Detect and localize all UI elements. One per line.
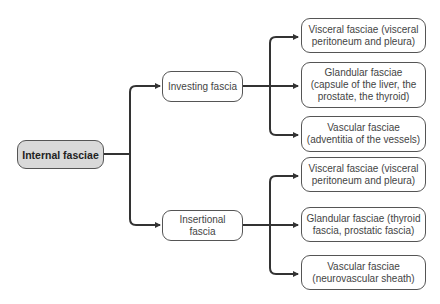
node-internal-fasciae: Internal fasciae xyxy=(17,140,104,169)
node-label: Visceral fasciae (visceral peritoneum an… xyxy=(306,24,421,48)
node-label: Visceral fasciae (visceral peritoneum an… xyxy=(306,163,421,187)
node-investing-fascia: Investing fascia xyxy=(162,71,243,102)
node-insertional-glandular-fasciae: Glandular fasciae (thyroid fascia, prost… xyxy=(301,207,426,242)
node-label: Investing fascia xyxy=(168,81,237,93)
node-investing-vascular-fasciae: Vascular fasciae (adventitia of the vess… xyxy=(301,116,426,152)
node-insertional-vascular-fasciae: Vascular fasciae (neurovascular sheath) xyxy=(301,255,426,290)
node-investing-visceral-fasciae: Visceral fasciae (visceral peritoneum an… xyxy=(301,18,426,53)
node-investing-glandular-fasciae: Glandular fasciae (capsule of the liver,… xyxy=(301,62,426,108)
node-insertional-fascia: Insertional fascia xyxy=(162,210,243,241)
node-label: Insertional fascia xyxy=(167,214,238,238)
node-label: Vascular fasciae (neurovascular sheath) xyxy=(306,261,421,285)
node-insertional-visceral-fasciae: Visceral fasciae (visceral peritoneum an… xyxy=(301,157,426,192)
node-label: Glandular fasciae (capsule of the liver,… xyxy=(306,67,421,103)
node-label: Vascular fasciae (adventitia of the vess… xyxy=(306,122,421,146)
node-label: Glandular fasciae (thyroid fascia, prost… xyxy=(306,213,421,237)
node-label: Internal fasciae xyxy=(22,149,98,161)
